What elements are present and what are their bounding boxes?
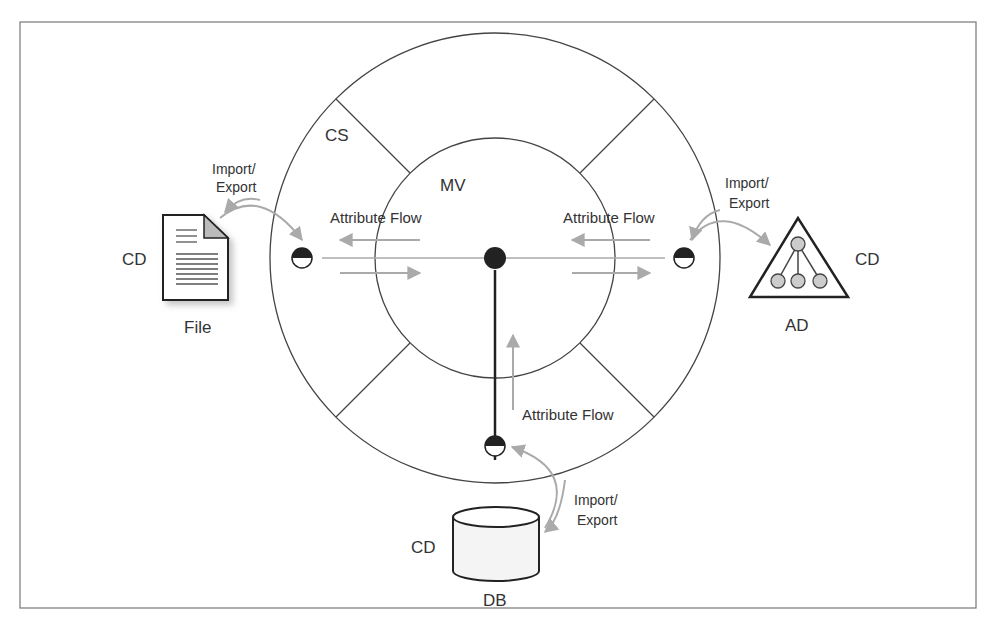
cs-label: CS	[325, 126, 349, 145]
cd-bottom-label: CD	[411, 538, 436, 557]
file-icon	[163, 215, 228, 300]
metadirectory-diagram: CS MV Attribute Flow Attribute Flow Attr…	[0, 0, 996, 641]
database-icon	[453, 507, 539, 581]
file-label: File	[184, 318, 211, 337]
import-export-right-label-2: Export	[729, 195, 770, 211]
import-export-bottom-label-1: Import/	[574, 492, 618, 508]
connector-node-bottom	[485, 436, 505, 456]
attribute-flow-right-label: Attribute Flow	[563, 209, 655, 226]
metaverse-center-node	[484, 247, 506, 269]
active-directory-icon	[750, 218, 848, 297]
connector-node-left	[292, 248, 312, 268]
attribute-flow-left-label: Attribute Flow	[330, 209, 422, 226]
import-export-left-label-2: Export	[216, 179, 257, 195]
cd-right-label: CD	[855, 250, 880, 269]
ad-label: AD	[785, 316, 809, 335]
import-export-right-label-1: Import/	[725, 175, 769, 191]
mv-label: MV	[440, 176, 466, 195]
db-label: DB	[483, 591, 507, 610]
cd-left-label: CD	[122, 250, 147, 269]
attribute-flow-bottom-label: Attribute Flow	[522, 406, 614, 423]
import-export-bottom-label-2: Export	[577, 512, 618, 528]
import-export-left-label-1: Import/	[212, 161, 256, 177]
connector-node-right	[674, 248, 694, 268]
